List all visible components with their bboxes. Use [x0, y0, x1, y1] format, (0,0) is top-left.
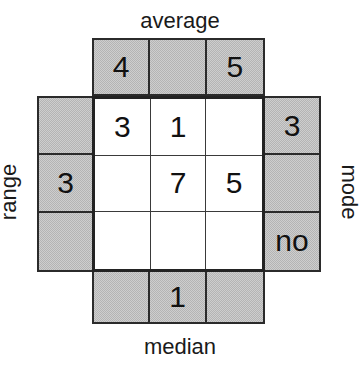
clue-band-average: 4 5	[92, 38, 265, 96]
clue-band-range: 3	[37, 96, 94, 272]
answer-cell-r3c1[interactable]	[95, 212, 151, 269]
clue-cell-mode-1[interactable]: 3	[265, 98, 319, 155]
clue-cell-range-2[interactable]: 3	[39, 155, 92, 212]
answer-cell-r2c3[interactable]: 5	[206, 156, 262, 213]
answer-cell-r2c2[interactable]: 7	[151, 156, 207, 213]
clue-cell-range-3[interactable]	[39, 213, 92, 270]
answer-grid: 3 1 7 5	[92, 96, 265, 272]
answer-cell-r3c3[interactable]	[206, 212, 262, 269]
clue-band-median: 1	[92, 270, 265, 324]
row-header-range: range	[0, 147, 20, 237]
clue-cell-average-2[interactable]	[150, 40, 206, 94]
clue-cell-median-3[interactable]	[207, 272, 263, 322]
clue-cell-median-2[interactable]: 1	[150, 272, 206, 322]
clue-cell-average-1[interactable]: 4	[94, 40, 150, 94]
clue-cell-mode-3[interactable]: no	[265, 213, 319, 270]
clue-cell-mode-2[interactable]	[265, 155, 319, 212]
answer-cell-r1c1[interactable]: 3	[95, 99, 151, 156]
clue-cell-average-3[interactable]: 5	[207, 40, 263, 94]
answer-cell-r2c1[interactable]	[95, 156, 151, 213]
statistics-puzzle-figure: average median range mode 4 5 3 3 no 1 3…	[0, 0, 360, 376]
row-header-mode: mode	[338, 147, 360, 237]
answer-cell-r1c3[interactable]	[206, 99, 262, 156]
clue-cell-median-1[interactable]	[94, 272, 150, 322]
clue-band-mode: 3 no	[263, 96, 321, 272]
column-header-average: average	[0, 10, 360, 32]
answer-cell-r3c2[interactable]	[151, 212, 207, 269]
column-header-median: median	[0, 336, 360, 358]
answer-cell-r1c2[interactable]: 1	[151, 99, 207, 156]
clue-cell-range-1[interactable]	[39, 98, 92, 155]
